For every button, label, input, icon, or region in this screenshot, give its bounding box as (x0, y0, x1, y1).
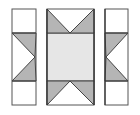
quilt-block-diagram (0, 0, 140, 115)
center-square (47, 33, 94, 81)
right-strip-outline (105, 9, 128, 105)
right-strip (105, 9, 128, 105)
center-column (47, 9, 94, 105)
left-strip-outline (12, 9, 36, 105)
left-strip (12, 9, 36, 105)
